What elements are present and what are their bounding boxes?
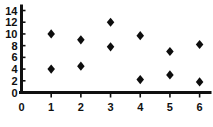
y-axis-tick-label: 12 [5,16,17,28]
data-point-marker [107,18,115,27]
scatter-chart: 02468101214 0123456 [0,0,213,127]
data-point-marker [47,29,55,38]
y-axis-tick-label: 2 [11,75,17,87]
y-axis-tick-label: 10 [5,28,17,40]
x-axis-group: 0123456 [18,93,210,113]
data-points-group [47,18,203,87]
x-axis-tick-label: 5 [167,101,173,113]
data-point-marker [107,42,115,51]
x-axis-tick-label: 4 [137,101,144,113]
x-axis-tick-label: 1 [48,101,54,113]
x-axis-tick-label: 2 [78,101,84,113]
plot-area: 02468101214 0123456 [0,0,213,127]
y-axis-group: 02468101214 [5,5,25,99]
data-point-marker [166,47,174,56]
data-point-marker [77,35,85,44]
chart-canvas: 02468101214 0123456 [0,0,213,127]
data-point-marker [136,75,144,84]
x-axis-tick-label: 3 [107,101,113,113]
data-point-marker [77,62,85,71]
y-axis-tick-label: 4 [11,63,18,75]
y-axis-tick-label: 8 [11,40,17,52]
data-point-marker [196,40,204,49]
y-axis-tick-label: 14 [5,5,18,17]
data-point-marker [136,31,144,40]
y-axis-tick-label: 0 [11,87,17,99]
x-axis-tick-label: 0 [18,101,24,113]
data-point-marker [166,70,174,79]
x-axis-tick-label: 6 [197,101,203,113]
data-point-marker [47,64,55,73]
data-point-marker [196,77,204,86]
y-axis-tick-label: 6 [11,51,17,63]
